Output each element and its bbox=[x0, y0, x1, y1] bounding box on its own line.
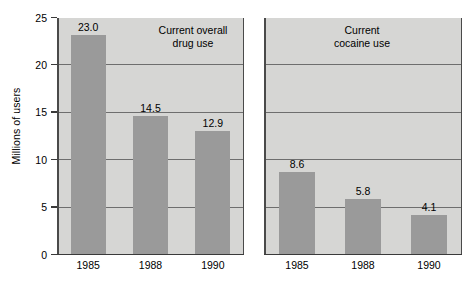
y-tick-label-10: 10 bbox=[25, 155, 47, 166]
axis-spine-right bbox=[461, 18, 463, 255]
bar-1988 bbox=[133, 116, 168, 253]
panel-title-line-1: Current overall bbox=[159, 24, 228, 36]
bar-value-label-1990: 4.1 bbox=[403, 202, 455, 213]
y-tick-10 bbox=[51, 159, 57, 161]
x-tick-label-1990: 1990 bbox=[187, 260, 239, 271]
gridline-15 bbox=[264, 112, 462, 113]
y-tick-25 bbox=[51, 17, 57, 19]
axis-spine-left bbox=[264, 18, 266, 255]
y-tick-label-0: 0 bbox=[25, 250, 47, 261]
y-tick-5 bbox=[51, 206, 57, 208]
chart-figure: Millions of users 23.014.512.9 Current o… bbox=[0, 0, 469, 284]
bar-1988 bbox=[345, 199, 382, 254]
bar-value-label-1988: 14.5 bbox=[125, 103, 177, 114]
bar-value-label-1985: 23.0 bbox=[62, 22, 114, 33]
bar-1990 bbox=[195, 131, 230, 253]
y-tick-0 bbox=[51, 254, 57, 256]
x-tick-label-1990: 1990 bbox=[403, 260, 455, 271]
y-tick-label-5: 5 bbox=[25, 202, 47, 213]
panel-title-overall-drug-use: Current overalldrug use bbox=[145, 24, 241, 50]
x-tick-label-1988: 1988 bbox=[337, 260, 389, 271]
y-tick-15 bbox=[51, 111, 57, 113]
x-tick-label-1985: 1985 bbox=[62, 260, 114, 271]
axis-spine-bottom bbox=[57, 254, 244, 256]
panel-overall-drug-use: 23.014.512.9 Current overalldrug use 051… bbox=[57, 18, 244, 255]
x-tick-label-1988: 1988 bbox=[125, 260, 177, 271]
bar-value-label-1990: 12.9 bbox=[187, 118, 239, 129]
panel-cocaine-use: 8.65.84.1 Currentcocaine use 19851988199… bbox=[264, 18, 462, 255]
bar-1985 bbox=[71, 35, 106, 253]
y-tick-label-20: 20 bbox=[25, 60, 47, 71]
y-tick-label-15: 15 bbox=[25, 107, 47, 118]
y-tick-label-25: 25 bbox=[25, 13, 47, 24]
axis-spine-right bbox=[243, 18, 245, 255]
panel-title-line-2: drug use bbox=[173, 37, 214, 49]
y-axis-label: Millions of users bbox=[10, 66, 22, 186]
gridline-20 bbox=[264, 64, 462, 65]
axis-spine-bottom bbox=[264, 254, 462, 256]
x-tick-label-1985: 1985 bbox=[271, 260, 323, 271]
panel-title-line-1: Current bbox=[344, 24, 379, 36]
bar-value-label-1988: 5.8 bbox=[337, 186, 389, 197]
y-tick-20 bbox=[51, 64, 57, 66]
panel-title-cocaine-use: Currentcocaine use bbox=[312, 24, 412, 50]
bar-1985 bbox=[279, 172, 316, 254]
panel-title-line-2: cocaine use bbox=[334, 37, 390, 49]
axis-spine-left bbox=[57, 18, 59, 255]
bar-1990 bbox=[411, 215, 448, 254]
bar-value-label-1985: 8.6 bbox=[271, 159, 323, 170]
